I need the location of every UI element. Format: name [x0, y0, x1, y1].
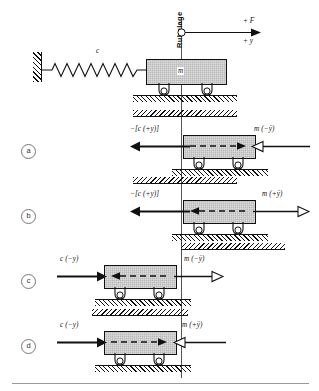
row-a-ceiling-hatch-icon	[133, 110, 237, 116]
row-d-spring-force-label: c (−y)	[60, 321, 78, 329]
row-d-spring-force-arrow	[57, 337, 107, 348]
row-c-inner-displacement-arrow	[111, 271, 169, 281]
row-b-ceiling-line	[133, 183, 237, 184]
row-c-spring-force-label: c (−y)	[60, 255, 78, 263]
row-c-ground-hatch-icon	[95, 300, 191, 306]
row-c-ceiling-hatch-icon	[181, 243, 285, 249]
free-body-diagram-figure: Ruhelage + F + y c m a	[0, 0, 319, 391]
row-d-ground-hatch-icon	[95, 366, 191, 372]
row-a-ceiling-line	[133, 116, 237, 117]
row-c-inertia-force-label: m (−ÿ)	[184, 255, 204, 263]
row-d-inertia-force-arrow	[174, 337, 226, 348]
row-a-ground-hatch-icon	[172, 170, 268, 176]
spring-element	[42, 60, 146, 80]
row-c-spring-force-arrow	[57, 271, 107, 282]
row-c-inertia-force-arrow	[174, 271, 224, 282]
row-b-ceiling-hatch-icon	[133, 177, 237, 183]
row-tag-a: a	[21, 144, 36, 159]
force-axis-label: + F	[243, 17, 254, 25]
row-a-inner-displacement-arrow	[190, 141, 248, 151]
mass-label: m	[177, 67, 184, 75]
row-a-inertia-force-arrow	[252, 141, 310, 152]
row-b-inertia-force-label: m (+ÿ)	[262, 190, 282, 198]
row-a-spring-force-label: −[c (+y)]	[130, 125, 159, 133]
row-d-inertia-force-label: m (+ÿ)	[182, 321, 202, 329]
row-tag-b: b	[21, 209, 36, 224]
row-b-inner-displacement-arrow	[190, 206, 248, 216]
row-d-ceiling-line	[92, 315, 188, 316]
spring-constant-label: c	[96, 47, 99, 55]
fixed-wall-hatch-icon	[33, 52, 41, 82]
row-b-spring-force-arrow	[130, 206, 190, 217]
row-a-spring-force-arrow	[130, 141, 190, 152]
row-b-spring-force-label: −[c (+y)]	[130, 190, 159, 198]
row-d-inner-displacement-arrow	[111, 337, 169, 347]
row-b-ground-hatch-icon	[172, 235, 268, 241]
row-a-inertia-force-label: m (−ÿ)	[254, 125, 274, 133]
mass-block	[146, 59, 227, 85]
ground-hatch-icon	[133, 96, 237, 102]
row-tag-c: c	[21, 274, 36, 289]
bottom-separator-rule	[12, 383, 309, 384]
row-c-ceiling-line	[181, 249, 285, 250]
row-d-ceiling-hatch-icon	[92, 309, 188, 315]
row-tag-d: d	[21, 339, 36, 354]
coordinate-axis-label: + y	[243, 37, 253, 45]
row-b-inertia-force-arrow	[253, 206, 311, 217]
